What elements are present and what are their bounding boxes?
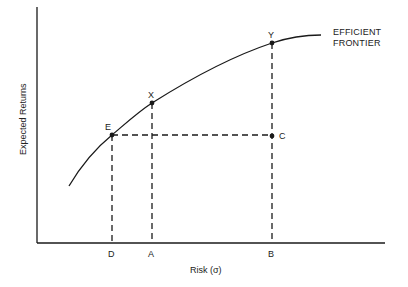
point-c-marker <box>270 134 275 139</box>
efficient-frontier-diagram: Expected Returns Risk (σ) EFFICIENT FRON… <box>0 0 408 287</box>
frontier-label-line1: EFFICIENT <box>333 27 381 38</box>
point-e-label: E <box>105 122 111 132</box>
point-e-marker <box>110 133 115 138</box>
frontier-label-line2: FRONTIER <box>333 38 381 49</box>
point-c-label: C <box>279 131 286 141</box>
x-marker-d-label: D <box>108 249 115 259</box>
efficient-frontier-curve <box>69 35 321 186</box>
x-marker-a-label: A <box>148 249 154 259</box>
point-x-label: X <box>148 90 154 100</box>
x-marker-b-label: B <box>268 249 274 259</box>
y-axis-label: Expected Returns <box>18 85 28 155</box>
point-x-marker <box>150 101 155 106</box>
point-y-label: Y <box>268 30 274 40</box>
x-axis-label: Risk (σ) <box>190 265 222 275</box>
point-y-marker <box>270 41 275 46</box>
